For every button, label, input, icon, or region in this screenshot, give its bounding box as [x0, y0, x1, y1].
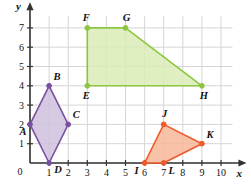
- x-axis-tick-label: 4: [104, 167, 109, 178]
- x-axis-tick-label: 5: [123, 167, 128, 178]
- x-axis-arrow: [238, 159, 246, 166]
- vertex-point-h: [200, 83, 205, 88]
- coordinate-plane-figure: 0123456789101234567xyABCDEFGHIJKL: [0, 0, 251, 187]
- vertex-label-k: K: [205, 129, 214, 140]
- vertex-point-d: [47, 161, 52, 166]
- y-axis-tick-label: 3: [19, 100, 24, 111]
- vertex-label-i: I: [134, 165, 140, 176]
- vertex-label-b: B: [53, 71, 61, 82]
- vertex-label-e: E: [82, 90, 90, 101]
- y-axis-arrow: [26, 2, 33, 10]
- x-axis-tick-label: 6: [142, 167, 147, 178]
- y-axis-tick-label: 7: [19, 22, 24, 33]
- vertex-point-k: [200, 141, 205, 146]
- x-axis-tick-label: 3: [85, 167, 90, 178]
- vertex-point-a: [28, 122, 33, 127]
- x-axis-tick-label: 1: [47, 167, 52, 178]
- y-axis-label: y: [14, 0, 21, 12]
- vertex-label-l: L: [167, 165, 174, 176]
- vertex-label-c: C: [73, 109, 81, 120]
- vertex-label-j: J: [161, 108, 168, 119]
- vertex-label-a: A: [18, 126, 26, 137]
- x-axis-label: x: [235, 167, 242, 179]
- vertex-label-d: D: [53, 164, 62, 175]
- vertex-point-i: [142, 161, 147, 166]
- vertex-label-g: G: [123, 12, 131, 23]
- x-axis-tick-label: 9: [199, 167, 204, 178]
- vertex-label-h: H: [199, 90, 209, 101]
- y-axis-tick-label: 1: [19, 138, 24, 149]
- vertex-point-e: [85, 83, 90, 88]
- vertex-point-g: [123, 26, 128, 31]
- vertex-label-f: F: [82, 12, 90, 23]
- y-axis-tick-label: 4: [19, 80, 24, 91]
- vertex-point-j: [161, 122, 166, 127]
- y-axis-tick-label: 6: [19, 42, 24, 53]
- rhombus-abcd: [30, 86, 68, 163]
- x-axis-tick-label: 8: [180, 167, 185, 178]
- vertex-point-b: [47, 83, 52, 88]
- x-axis-tick-label: 7: [161, 167, 166, 178]
- x-axis-tick-label: 2: [66, 167, 71, 178]
- y-axis-tick-label: 5: [19, 61, 24, 72]
- x-axis-tick-label: 10: [216, 167, 226, 178]
- vertex-point-l: [161, 161, 166, 166]
- vertex-point-f: [85, 26, 90, 31]
- vertex-point-c: [66, 122, 71, 127]
- x-axis-origin-label: 0: [18, 166, 23, 177]
- coordinate-plane-svg: 0123456789101234567xyABCDEFGHIJKL: [0, 0, 251, 187]
